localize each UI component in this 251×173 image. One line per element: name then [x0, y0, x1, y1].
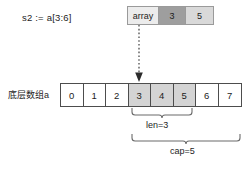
slice-header-array-pointer-cell: array [128, 7, 159, 24]
slice-expression-label: s2 := a[3:6] [22, 12, 72, 23]
slice-header-struct: array 3 5 [127, 6, 214, 25]
array-cell-2: 2 [106, 84, 129, 106]
dotted-down-arrow-icon [132, 25, 146, 83]
array-cell-7: 7 [219, 84, 242, 106]
cap-curly-brace-icon [131, 134, 241, 145]
underlying-array-label: 底层数组a [8, 88, 49, 101]
array-cell-1: 1 [84, 84, 107, 106]
array-cell-5: 5 [174, 84, 197, 106]
len-annotation-label: len=3 [146, 120, 168, 130]
underlying-array-row: 0 1 2 3 4 5 6 7 [60, 83, 242, 107]
slice-header-cap-cell: 5 [186, 7, 213, 24]
slice-header-len-cell: 3 [159, 7, 186, 24]
array-cell-0: 0 [61, 84, 84, 106]
array-cell-4: 4 [151, 84, 174, 106]
cap-annotation-label: cap=5 [170, 146, 195, 156]
slice-diagram: s2 := a[3:6] array 3 5 底层数组a 0 1 2 3 4 5… [0, 0, 251, 173]
len-curly-brace-icon [131, 108, 193, 119]
array-cell-3: 3 [129, 84, 152, 106]
array-cell-6: 6 [196, 84, 219, 106]
pointer-arrow-head [135, 73, 143, 83]
